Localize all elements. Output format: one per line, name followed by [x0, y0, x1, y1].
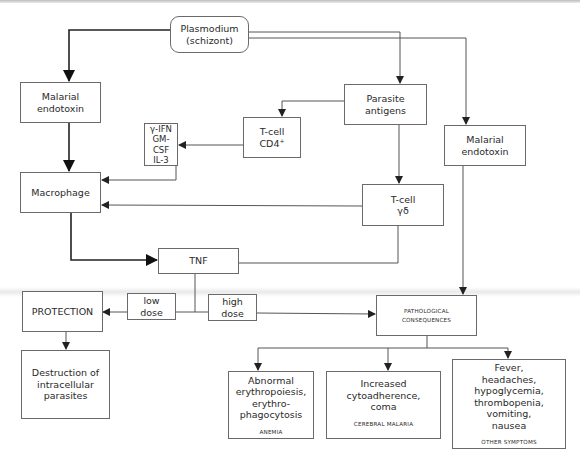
anemia-line2: erythropoiesis,	[236, 386, 307, 398]
endotoxin-left-line2: endotoxin	[37, 103, 84, 115]
node-endotoxin-right: Malarial endotoxin	[444, 125, 526, 166]
node-tnf: TNF	[158, 248, 239, 274]
plasmodium-line1: Plasmodium	[180, 23, 238, 35]
cerebral-line3: coma	[370, 401, 396, 413]
node-anemia: Abnormal erythropoiesis, erythro- phagoc…	[228, 371, 314, 439]
node-destruction: Destruction of intracellular parasites	[21, 350, 110, 419]
cerebral-line1: Increased	[360, 378, 406, 390]
edge-cytokines-macrophage	[102, 165, 176, 180]
node-low-dose: low dose	[127, 293, 176, 320]
pathological-line2: CONSEQUENCES	[402, 316, 451, 325]
endotoxin-right-line2: endotoxin	[461, 146, 508, 158]
edge-macrophage-tnf	[71, 212, 157, 260]
node-tcell-gd: T-cell γδ	[362, 184, 444, 226]
node-cerebral: Increased cytoadherence, coma CEREBRAL M…	[326, 371, 441, 439]
tcell-gd-line1: T-cell	[391, 194, 416, 206]
cytokines-line3: IL-3	[153, 155, 169, 166]
edge-gd-macrophage	[102, 205, 362, 206]
other-category: OTHER SYMPTOMS	[481, 438, 536, 446]
node-tcell-cd4: T-cell CD4+	[243, 117, 301, 158]
edge-plasmodium-endotoxin-left	[69, 30, 170, 81]
macrophage-label: Macrophage	[31, 187, 90, 199]
parasite-antigens-line1: Parasite	[366, 93, 404, 105]
node-pathological: PATHOLOGICAL CONSEQUENCES	[376, 295, 477, 336]
parasite-antigens-line2: antigens	[365, 105, 406, 117]
other-line6: nausea	[492, 420, 526, 432]
destruction-line1: Destruction of	[32, 367, 99, 379]
cytokines-line1: γ-IFN	[150, 124, 172, 135]
pathological-line1: PATHOLOGICAL	[404, 307, 449, 316]
node-protection: PROTECTION	[22, 291, 103, 332]
plasmodium-line2: (schizont)	[186, 35, 233, 47]
other-line4: thrombopenia,	[474, 397, 544, 409]
edge-antigens-cd4	[282, 101, 344, 116]
node-high-dose: high dose	[208, 294, 257, 321]
anemia-line4: phagocytosis	[240, 409, 303, 421]
tcell-cd4-sup: +	[279, 136, 284, 143]
anemia-line3: erythro-	[252, 398, 290, 410]
other-line1: Fever,	[494, 362, 523, 374]
low-dose-line1: low	[143, 295, 159, 307]
node-macrophage: Macrophage	[20, 172, 101, 213]
destruction-line3: parasites	[44, 390, 88, 402]
node-endotoxin-left: Malarial endotoxin	[20, 82, 101, 123]
cytokines-line2: GM-CSF	[145, 134, 177, 155]
anemia-line1: Abnormal	[248, 375, 294, 387]
node-cytokines: γ-IFN GM-CSF IL-3	[144, 123, 178, 166]
node-plasmodium: Plasmodium (schizont)	[170, 16, 249, 53]
protection-label: PROTECTION	[32, 306, 93, 318]
node-parasite-antigens: Parasite antigens	[344, 84, 427, 125]
edge-gd-tnf	[239, 225, 398, 263]
tnf-label: TNF	[189, 255, 207, 267]
endotoxin-right-line1: Malarial	[466, 134, 504, 146]
cerebral-category: CEREBRAL MALARIA	[354, 420, 413, 428]
other-line3: hypoglycemia,	[474, 385, 544, 397]
other-line5: vomiting,	[487, 408, 532, 420]
cerebral-line2: cytoadherence,	[347, 390, 421, 402]
high-dose-line1: high	[222, 296, 243, 308]
edge-high-dose-pathological	[256, 313, 375, 314]
tcell-cd4-line2-wrap: CD4+	[259, 138, 284, 150]
low-dose-line2: dose	[140, 307, 163, 319]
high-dose-line2: dose	[221, 308, 244, 320]
other-line2: headaches,	[482, 374, 537, 386]
edge-plasmodium-parasite-antigens	[248, 32, 400, 83]
anemia-category: ANEMIA	[259, 428, 282, 436]
endotoxin-left-line1: Malarial	[42, 91, 80, 103]
tcell-gd-line2: γδ	[397, 205, 408, 217]
node-other-symptoms: Fever, headaches, hypoglycemia, thrombop…	[452, 359, 566, 449]
destruction-line2: intracellular	[37, 379, 94, 391]
tcell-cd4-line2: CD4	[259, 138, 279, 149]
